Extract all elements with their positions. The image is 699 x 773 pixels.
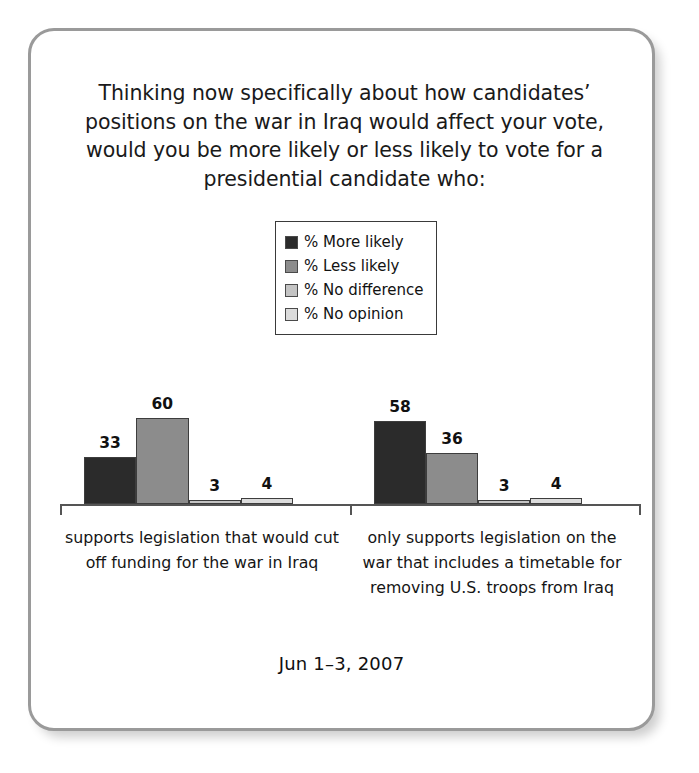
bar-value-label-1-2: 60: [136, 395, 188, 413]
bar-group-1: 336034: [60, 361, 350, 504]
bar-2-1: [374, 421, 426, 504]
bar-1-1: [84, 457, 136, 504]
category-label-1: supports legislation that would cut off …: [64, 525, 340, 575]
bar-value-label-1-4: 4: [241, 475, 293, 493]
bar-2-2: [426, 453, 478, 504]
bar-1-2: [136, 418, 188, 504]
bar-chart-plot-area: 336034 583634: [31, 31, 652, 728]
bar-value-label-1-3: 3: [189, 477, 241, 495]
x-axis-tick-middle: [350, 504, 352, 515]
bar-value-label-2-4: 4: [530, 475, 582, 493]
bar-group-2: 583634: [350, 361, 639, 504]
x-axis-tick-left: [60, 504, 62, 515]
category-label-2: only supports legislation on the war tha…: [354, 525, 630, 600]
poll-card: Thinking now specifically about how cand…: [28, 28, 655, 731]
bar-value-label-1-1: 33: [84, 434, 136, 452]
bar-value-label-2-2: 36: [426, 430, 478, 448]
x-axis-tick-right: [639, 504, 641, 515]
bar-value-label-2-3: 3: [478, 477, 530, 495]
bar-value-label-2-1: 58: [374, 398, 426, 416]
poll-date-footer: Jun 1–3, 2007: [31, 653, 652, 674]
